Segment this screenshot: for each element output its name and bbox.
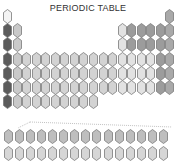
f-block-connector bbox=[0, 0, 176, 163]
periodic-table-grid bbox=[0, 0, 176, 163]
